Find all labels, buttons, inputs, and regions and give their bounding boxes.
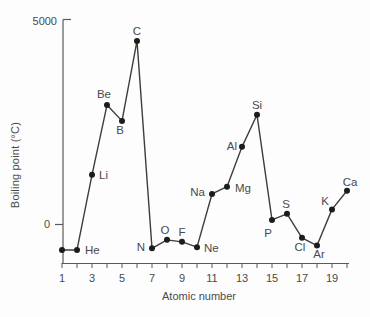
- x-axis-title: Atomic number: [162, 290, 236, 302]
- data-point-C: [134, 38, 140, 44]
- boiling-point-chart: 135791113151719HeLiBeBCNOFNeNaMgAlSiPSCl…: [0, 0, 370, 317]
- data-point-O: [164, 237, 170, 243]
- point-label-Mg: Mg: [235, 182, 251, 194]
- data-point-P: [269, 217, 275, 223]
- data-point-Be: [104, 102, 110, 108]
- point-label-Ne: Ne: [204, 242, 219, 254]
- data-point-S: [284, 211, 290, 217]
- point-label-F: F: [178, 226, 185, 238]
- data-point-K: [329, 206, 335, 212]
- x-tick-label: 13: [236, 272, 248, 284]
- y-tick-label-5000: 5000: [0, 15, 57, 27]
- x-tick-label: 7: [149, 272, 155, 284]
- data-point-Al: [239, 144, 245, 150]
- point-label-Al: Al: [227, 140, 237, 152]
- point-label-Ar: Ar: [313, 248, 325, 260]
- point-label-S: S: [282, 198, 290, 210]
- x-tick-label: 5: [119, 272, 125, 284]
- data-point-Si: [254, 112, 260, 118]
- data-point-Li: [89, 172, 95, 178]
- point-label-Be: Be: [97, 88, 111, 100]
- x-tick-label: 11: [206, 272, 217, 284]
- point-label-Ca: Ca: [343, 176, 358, 188]
- data-point-Na: [209, 191, 215, 197]
- plot-svg: 135791113151719HeLiBeBCNOFNeNaMgAlSiPSCl…: [0, 0, 370, 317]
- point-label-O: O: [161, 224, 170, 236]
- y-axis-title: Boiling point (°C): [9, 122, 21, 208]
- point-label-K: K: [321, 195, 329, 207]
- point-label-P: P: [264, 227, 272, 239]
- point-label-Cl: Cl: [295, 241, 306, 253]
- data-point-F: [179, 239, 185, 245]
- data-point-H: [59, 247, 65, 253]
- point-label-He: He: [85, 244, 100, 256]
- point-label-Li: Li: [99, 169, 108, 181]
- data-point-He: [74, 247, 80, 253]
- data-point-N: [149, 245, 155, 251]
- x-tick-label: 15: [266, 272, 278, 284]
- x-tick-label: 9: [179, 272, 185, 284]
- point-label-B: B: [116, 124, 124, 136]
- x-tick-label: 1: [59, 272, 65, 284]
- point-label-Na: Na: [190, 186, 205, 198]
- x-tick-label: 17: [296, 272, 308, 284]
- point-label-Si: Si: [252, 99, 262, 111]
- x-tick-label: 3: [89, 272, 95, 284]
- data-point-Mg: [224, 184, 230, 190]
- data-point-Ca: [344, 188, 350, 194]
- y-tick-label-0: 0: [0, 218, 50, 230]
- data-point-Ne: [194, 244, 200, 250]
- x-tick-label: 19: [326, 272, 338, 284]
- point-label-C: C: [133, 25, 141, 37]
- series-line: [62, 41, 347, 250]
- point-label-N: N: [137, 241, 145, 253]
